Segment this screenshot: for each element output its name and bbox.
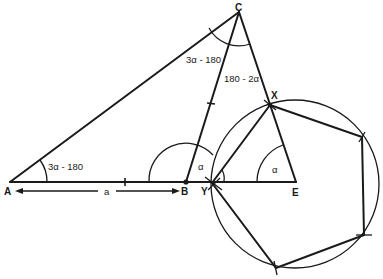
segment-AC xyxy=(10,12,239,182)
angle-arc-A xyxy=(40,160,47,182)
pentagon-circumcircle xyxy=(211,100,379,268)
angle-arc-E xyxy=(257,145,283,182)
angle-label-E: α xyxy=(272,164,278,175)
segment-CE xyxy=(239,12,296,182)
angle-arc-Y xyxy=(222,170,224,181)
label-C: C xyxy=(235,2,242,13)
label-E: E xyxy=(292,187,299,198)
point-B-dot xyxy=(183,179,188,184)
label-X: X xyxy=(271,90,278,101)
dimension-label-a: a xyxy=(104,186,110,197)
arrowhead-right-icon xyxy=(172,188,180,194)
label-B: B xyxy=(181,186,188,197)
geometry-diagram: A B C X Y E 3α - 180 3α - 180 180 - 2α α… xyxy=(0,0,383,279)
label-A: A xyxy=(4,186,11,197)
arrowhead-left-icon xyxy=(15,188,23,194)
angle-label-B: α xyxy=(198,161,204,172)
tick-BC xyxy=(207,103,215,104)
angle-label-C-left: 3α - 180 xyxy=(186,54,221,65)
label-Y: Y xyxy=(201,186,208,197)
pentagon-edges xyxy=(212,105,364,268)
angle-label-C-right: 180 - 2α xyxy=(224,73,260,84)
angle-label-A: 3α - 180 xyxy=(48,161,83,172)
